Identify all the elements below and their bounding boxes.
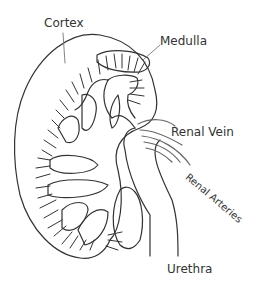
kidney-diagram: Cortex Medulla Renal Vein Renal Arteries… [0,0,256,296]
kidney-illustration [0,0,256,296]
renal-artery-line [144,142,180,162]
renal-pelvis [124,128,150,256]
lobe [110,95,120,128]
label-medulla: Medulla [160,35,207,47]
renal-artery-line [146,148,172,162]
cortex-leader [63,33,65,63]
medulla-region [97,51,150,72]
lobe [58,116,79,142]
label-urethra: Urethra [167,263,212,275]
lobe [78,210,108,245]
renal-artery-line [142,136,190,165]
pelvis-cavity [113,187,142,248]
cortex-rays [36,54,145,250]
medulla-leader [143,45,160,60]
label-renal-vein: Renal Vein [171,126,234,138]
lobe [50,155,98,173]
label-cortex: Cortex [44,17,84,29]
lobe [48,180,108,198]
